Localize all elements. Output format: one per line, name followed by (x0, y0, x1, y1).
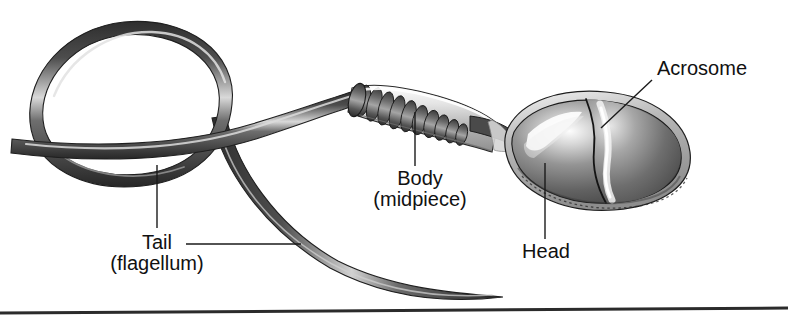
label-acrosome: Acrosome (657, 58, 747, 79)
label-head: Head (522, 241, 570, 262)
diagram-canvas (0, 0, 788, 326)
flagellum-shaft (11, 90, 361, 159)
label-tail: Tail (flagellum) (110, 232, 203, 274)
sperm-cell-diagram: Acrosome Body (midpiece) Head Tail (flag… (0, 0, 788, 326)
label-tail-line2: (flagellum) (110, 253, 203, 274)
label-body-line1: Body (373, 168, 466, 189)
label-body-line2: (midpiece) (373, 189, 466, 210)
head (505, 91, 690, 210)
flagellum-loop (30, 21, 233, 187)
bottom-rule (0, 308, 788, 313)
label-body: Body (midpiece) (373, 168, 466, 210)
label-tail-line1: Tail (110, 232, 203, 253)
flagellum (11, 21, 503, 299)
